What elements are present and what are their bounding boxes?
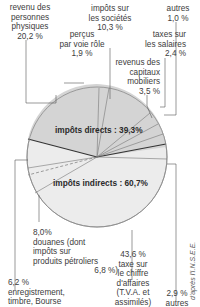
label-revenu-personnes-physiques: revenu des personnes physiques 20,2 %: [6, 3, 54, 41]
label-enregistrement: 6,2 % enregistrement, timbre, Bourse: [8, 278, 65, 307]
source-credit: d'après l'I.N.S.E.E.: [189, 242, 196, 300]
label-tva: 43,6 % taxe sur le chiffre d'affaires (T…: [108, 250, 158, 307]
label-impots-directs: impôts directs : 39,3%: [55, 125, 143, 135]
label-impots-societes: impôts sur les sociétés 10,3 %: [80, 4, 140, 33]
label-autres-indirects: 2,9 % autres: [162, 289, 192, 307]
label-percus-voie-role: perçus par voie rôle 1,9 %: [52, 30, 112, 59]
label-taxes-salaires: taxes sur les salaires 2,4 %: [128, 30, 186, 59]
label-impots-indirects: impôts indirects : 60,7%: [53, 178, 148, 188]
label-douanes: 8,0% douanes (dont impôts sur produits p…: [33, 228, 98, 266]
label-revenus-capitaux: revenus des capitaux mobiliers 3,5 %: [108, 58, 160, 96]
label-autres-directs: autres 1,0 %: [161, 4, 195, 23]
